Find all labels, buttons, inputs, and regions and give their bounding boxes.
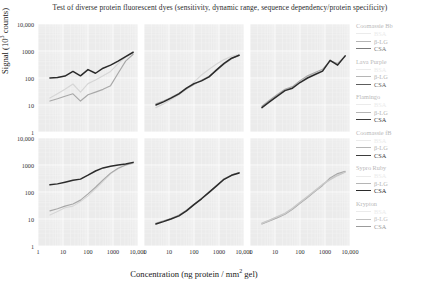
legend-label: BSA <box>374 30 386 37</box>
legend-item[interactable]: BSA <box>356 66 440 73</box>
chart-legend: Coomassie BbBSAβ-LGCSALava PurpleBSAβ-LG… <box>356 22 440 235</box>
legend-swatch-icon <box>356 190 371 191</box>
x-tick-label: 1000 <box>313 248 337 255</box>
legend-item[interactable]: CSA <box>356 45 440 52</box>
y-tick-label: 10,000 <box>0 21 34 28</box>
legend-item[interactable]: BSA <box>356 208 440 215</box>
legend-item[interactable]: BSA <box>356 172 440 179</box>
x-tick-label: 10,000 <box>338 248 362 255</box>
chart-title: Test of diverse protein fluorescent dyes… <box>0 3 440 12</box>
y-tick-label: 10,000 <box>0 135 34 142</box>
legend-group-title: Sypro Ruby <box>356 164 440 171</box>
panel-flamingo <box>250 24 350 132</box>
legend-swatch-icon <box>356 84 371 85</box>
y-tick-label: 100 <box>0 189 34 196</box>
y-tick-label: 10 <box>0 216 34 223</box>
x-tick-label: 1 <box>238 248 262 255</box>
y-tick-label: 1000 <box>0 162 34 169</box>
legend-item[interactable]: β-LG <box>356 38 440 45</box>
x-axis-title: Concentration (ng protein / mm2 gel) <box>38 268 350 279</box>
legend-swatch-icon <box>356 119 371 120</box>
legend-item[interactable]: CSA <box>356 81 440 88</box>
legend-group-title: Lava Purple <box>356 58 440 65</box>
legend-swatch-icon <box>356 48 371 49</box>
legend-swatch-icon <box>356 211 371 212</box>
y-tick-label: 100 <box>0 75 34 82</box>
legend-swatch-icon <box>356 147 371 148</box>
x-tick-label: 1000 <box>207 248 231 255</box>
legend-item[interactable]: β-LG <box>356 144 440 151</box>
legend-label: CSA <box>374 187 386 194</box>
x-tick-label: 1 <box>26 248 50 255</box>
legend-item[interactable]: β-LG <box>356 180 440 187</box>
legend-group-coomassie-bb: Coomassie BbBSAβ-LGCSA <box>356 22 440 52</box>
legend-label: β-LG <box>374 144 388 151</box>
legend-swatch-icon <box>356 104 371 105</box>
panel-sypro-ruby <box>144 138 244 246</box>
x-tick-label: 1000 <box>101 248 125 255</box>
legend-item[interactable]: BSA <box>356 101 440 108</box>
legend-label: BSA <box>374 137 386 144</box>
legend-group-sypro-ruby: Sypro RubyBSAβ-LGCSA <box>356 164 440 194</box>
legend-label: BSA <box>374 208 386 215</box>
legend-label: β-LG <box>374 215 388 222</box>
legend-label: CSA <box>374 152 386 159</box>
y-tick-label: 10 <box>0 102 34 109</box>
legend-group-krypton: KryptonBSAβ-LGCSA <box>356 200 440 230</box>
legend-item[interactable]: β-LG <box>356 215 440 222</box>
y-tick-label: 1000 <box>0 48 34 55</box>
legend-label: CSA <box>374 116 386 123</box>
legend-swatch-icon <box>356 155 371 156</box>
legend-label: BSA <box>374 66 386 73</box>
legend-item[interactable]: β-LG <box>356 73 440 80</box>
legend-label: β-LG <box>374 73 388 80</box>
x-tick-label: 100 <box>288 248 312 255</box>
x-tick-label: 10 <box>157 248 181 255</box>
legend-label: BSA <box>374 172 386 179</box>
legend-swatch-icon <box>356 33 371 34</box>
legend-group-title: Flamingo <box>356 93 440 100</box>
panel-lava-purple <box>144 24 244 132</box>
legend-group-title: Krypton <box>356 200 440 207</box>
legend-item[interactable]: β-LG <box>356 109 440 116</box>
legend-label: β-LG <box>374 180 388 187</box>
panel-coomassie-blue <box>38 24 138 132</box>
legend-swatch-icon <box>356 41 371 42</box>
legend-item[interactable]: CSA <box>356 187 440 194</box>
legend-swatch-icon <box>356 183 371 184</box>
panel-krypton <box>250 138 350 246</box>
x-tick-label: 10 <box>263 248 287 255</box>
legend-swatch-icon <box>356 176 371 177</box>
legend-label: CSA <box>374 81 386 88</box>
panel-coomassie-fb <box>38 138 138 246</box>
legend-group-coomassie-fb: Coomassie fBBSAβ-LGCSA <box>356 129 440 159</box>
legend-group-title: Coomassie Bb <box>356 22 440 29</box>
legend-item[interactable]: CSA <box>356 223 440 230</box>
legend-label: BSA <box>374 101 386 108</box>
legend-label: CSA <box>374 223 386 230</box>
x-tick-label: 1 <box>132 248 156 255</box>
legend-swatch-icon <box>356 219 371 220</box>
legend-item[interactable]: CSA <box>356 152 440 159</box>
x-tick-label: 100 <box>76 248 100 255</box>
legend-group-title: Coomassie fB <box>356 129 440 136</box>
legend-group-flamingo: FlamingoBSAβ-LGCSA <box>356 93 440 123</box>
legend-swatch-icon <box>356 69 371 70</box>
chart-root: Test of diverse protein fluorescent dyes… <box>0 0 440 287</box>
legend-item[interactable]: CSA <box>356 116 440 123</box>
legend-label: CSA <box>374 45 386 52</box>
legend-group-lava-purple: Lava PurpleBSAβ-LGCSA <box>356 58 440 88</box>
legend-label: β-LG <box>374 38 388 45</box>
legend-swatch-icon <box>356 112 371 113</box>
x-tick-label: 100 <box>182 248 206 255</box>
x-tick-label: 10 <box>51 248 75 255</box>
legend-item[interactable]: BSA <box>356 30 440 37</box>
legend-label: β-LG <box>374 109 388 116</box>
legend-item[interactable]: BSA <box>356 137 440 144</box>
legend-swatch-icon <box>356 76 371 77</box>
legend-swatch-icon <box>356 140 371 141</box>
legend-swatch-icon <box>356 226 371 227</box>
